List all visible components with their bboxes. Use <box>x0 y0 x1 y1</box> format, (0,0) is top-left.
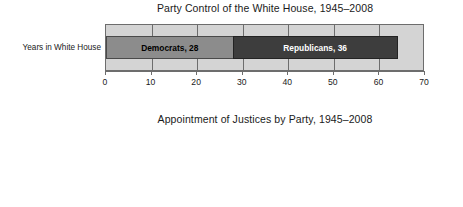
x-axis-tick-label: 0 <box>103 77 108 87</box>
x-axis-tick-label: 60 <box>374 77 384 87</box>
x-axis-tick-label: 30 <box>237 77 247 87</box>
x-axis-tick-label: 70 <box>419 77 429 87</box>
x-axis-tick <box>196 71 197 75</box>
x-axis-tick-label: 20 <box>191 77 201 87</box>
chart-page: Party Control of the White House, 1945–2… <box>0 0 463 207</box>
y-axis-label-wrap: Years in White House <box>0 36 101 60</box>
x-axis-tick <box>424 71 425 75</box>
x-axis: 010203040506070 <box>105 71 424 72</box>
x-axis-tick <box>287 71 288 75</box>
chart-title: Party Control of the White House, 1945–2… <box>105 2 425 14</box>
chart-justice-appointments: Appointment of Justices by Party, 1945–2… <box>0 104 463 207</box>
y-axis-label: Years in White House <box>23 43 101 53</box>
x-axis-tick <box>378 71 379 75</box>
bar-segment-democrats: Democrats, 28 <box>106 36 234 59</box>
x-axis-tick <box>105 71 106 75</box>
chart-title: Appointment of Justices by Party, 1945–2… <box>105 113 425 125</box>
x-axis-tick <box>242 71 243 75</box>
chart-party-control: Party Control of the White House, 1945–2… <box>0 0 463 104</box>
x-axis-tick <box>333 71 334 75</box>
plot-area: Democrats, 28 Republicans, 36 <box>105 24 424 71</box>
x-axis-tick-label: 50 <box>328 77 338 87</box>
x-axis-tick <box>151 71 152 75</box>
stacked-bar: Democrats, 28 Republicans, 36 <box>106 36 398 59</box>
bar-segment-republicans: Republicans, 36 <box>233 36 398 59</box>
x-axis-tick-label: 10 <box>146 77 156 87</box>
x-axis-tick-label: 40 <box>283 77 293 87</box>
